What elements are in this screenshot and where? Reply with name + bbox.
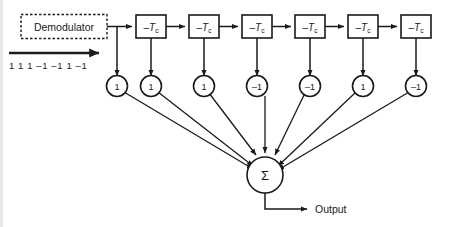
tap-5-sum-wire bbox=[278, 92, 356, 166]
tap-3-value: –1 bbox=[252, 82, 262, 92]
delay-block-4-subscript: c bbox=[314, 27, 318, 34]
tap-0-value: 1 bbox=[114, 82, 119, 92]
output-wire bbox=[265, 193, 307, 209]
delay-block-1-subscript: c bbox=[155, 27, 159, 34]
diagram-canvas: Demodulator 1 1 1 –1 –1 1 –1 –Tc –Tc –Tc bbox=[0, 0, 457, 227]
demodulator-label: Demodulator bbox=[34, 21, 95, 33]
delay-block-6-subscript: c bbox=[420, 27, 424, 34]
tap-5-value: 1 bbox=[360, 82, 365, 92]
tap-1-value: 1 bbox=[148, 82, 153, 92]
tap-6-value: –1 bbox=[411, 82, 421, 92]
block-diagram: Demodulator 1 1 1 –1 –1 1 –1 –Tc –Tc –Tc bbox=[0, 0, 457, 227]
output-label: Output bbox=[315, 203, 347, 215]
summer-label: Σ bbox=[261, 168, 269, 183]
tap-2-value: 1 bbox=[201, 82, 206, 92]
tap-4-value: –1 bbox=[305, 82, 315, 92]
delay-block-3-subscript: c bbox=[261, 27, 265, 34]
input-sequence-label: 1 1 1 –1 –1 1 –1 bbox=[9, 60, 87, 71]
delay-block-2-subscript: c bbox=[208, 27, 212, 34]
delay-block-5-subscript: c bbox=[367, 27, 371, 34]
tap-0-sum-wire bbox=[124, 92, 253, 169]
tap-4-sum-wire bbox=[275, 93, 305, 155]
tap-1-sum-wire bbox=[158, 92, 253, 166]
tap-2-sum-wire bbox=[209, 93, 256, 155]
